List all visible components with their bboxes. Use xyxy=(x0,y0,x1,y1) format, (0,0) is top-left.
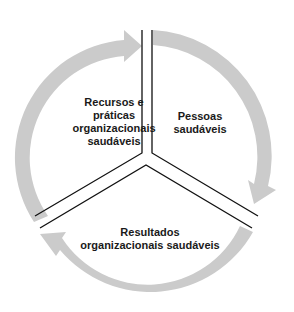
segment-label-people: Pessoas saudáveis xyxy=(160,110,240,136)
label-line: Resultados xyxy=(70,226,230,239)
cycle-diagram xyxy=(0,0,294,312)
segment-label-resources: Recursos e práticas organizacionais saud… xyxy=(72,96,156,148)
label-line: saudáveis xyxy=(160,123,240,136)
label-line: organizacionais saudáveis xyxy=(70,239,230,252)
label-line: práticas xyxy=(72,109,156,122)
segment-label-results: Resultados organizacionais saudáveis xyxy=(70,226,230,252)
label-line: Pessoas xyxy=(160,110,240,123)
label-line: saudáveis xyxy=(72,135,156,148)
label-line: organizacionais xyxy=(72,122,156,135)
label-line: Recursos e xyxy=(72,96,156,109)
